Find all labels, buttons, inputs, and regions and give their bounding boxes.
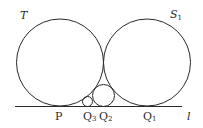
label-s1: S1 <box>170 8 182 22</box>
circle-q3 <box>83 97 93 107</box>
label-t: T <box>20 9 29 22</box>
circle-s1 <box>104 19 191 106</box>
circle-q2 <box>93 85 115 107</box>
label-p: P <box>55 110 63 123</box>
label-q3: Q3 <box>83 110 97 123</box>
label-l: l <box>187 110 191 123</box>
label-q2: Q2 <box>99 110 113 123</box>
circle-t <box>17 19 104 106</box>
label-q1: Q1 <box>143 110 157 123</box>
tangent-circles-diagram: T S1 P Q3 Q2 Q1 l <box>0 0 203 128</box>
